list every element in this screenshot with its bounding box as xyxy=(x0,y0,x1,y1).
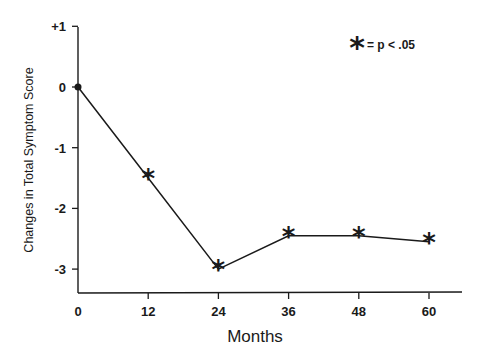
data-point-star: * xyxy=(422,228,436,258)
data-point-star: * xyxy=(141,164,155,194)
y-axis-title: Changes in Total Symptom Score xyxy=(22,67,36,252)
x-axis-line xyxy=(78,292,462,293)
axes xyxy=(78,27,462,293)
data-point-dot xyxy=(75,84,82,91)
x-tick-label: 0 xyxy=(74,304,81,319)
legend: * = p < .05 xyxy=(349,30,415,65)
legend-star-icon: * xyxy=(349,30,365,65)
x-tick-label: 60 xyxy=(422,304,436,319)
y-tick-label: -3 xyxy=(54,262,66,277)
y-tick-label: -1 xyxy=(54,141,66,156)
x-tick-label: 48 xyxy=(352,304,366,319)
y-ticks: +10-1-2-3 xyxy=(51,19,78,277)
x-tick-label: 24 xyxy=(211,304,226,319)
series-line xyxy=(78,87,429,269)
y-tick-label: +1 xyxy=(51,19,66,34)
y-tick-label: -2 xyxy=(54,201,66,216)
x-tick-label: 12 xyxy=(141,304,155,319)
x-axis-title: Months xyxy=(227,327,283,346)
y-tick-label: 0 xyxy=(59,80,66,95)
series: ***** xyxy=(75,84,437,286)
data-point-star: * xyxy=(352,222,366,252)
x-ticks: 01224364860 xyxy=(74,293,436,319)
data-point-star: * xyxy=(282,222,296,252)
chart: +10-1-2-3 01224364860 ***** Months Chang… xyxy=(0,0,485,359)
legend-label: = p < .05 xyxy=(367,38,415,52)
x-tick-label: 36 xyxy=(281,304,295,319)
data-point-star: * xyxy=(212,255,226,285)
